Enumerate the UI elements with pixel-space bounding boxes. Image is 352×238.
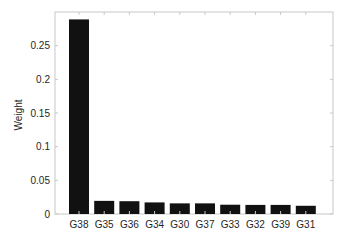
x-tick-label: G34 xyxy=(145,219,164,230)
x-tick-label: G33 xyxy=(221,219,240,230)
y-tick-label: 0.25 xyxy=(31,40,51,51)
y-tick-label: 0.2 xyxy=(36,74,50,85)
x-tick-label: G31 xyxy=(296,219,315,230)
axes-frame xyxy=(55,12,333,214)
y-tick-label: 0.1 xyxy=(36,141,50,152)
x-tick-label: G32 xyxy=(246,219,265,230)
bar-series xyxy=(69,19,316,214)
x-tick-label: G38 xyxy=(70,219,89,230)
x-tick-label: G36 xyxy=(120,219,139,230)
y-tick-label: 0.15 xyxy=(31,108,51,119)
y-tick-label: 0 xyxy=(44,209,50,220)
plot-area xyxy=(55,12,333,214)
x-axis-ticks: G38G35G36G34G30G37G33G32G39G31 xyxy=(70,12,316,230)
x-tick-label: G37 xyxy=(196,219,215,230)
x-tick-label: G39 xyxy=(271,219,290,230)
y-tick-label: 0.05 xyxy=(31,175,51,186)
x-tick-label: G30 xyxy=(170,219,189,230)
bar-g38 xyxy=(69,19,89,214)
x-tick-label: G35 xyxy=(95,219,114,230)
bar-chart: 00.050.10.150.20.25 G38G35G36G34G30G37G3… xyxy=(0,0,352,238)
y-axis-label: Weight xyxy=(13,99,24,130)
